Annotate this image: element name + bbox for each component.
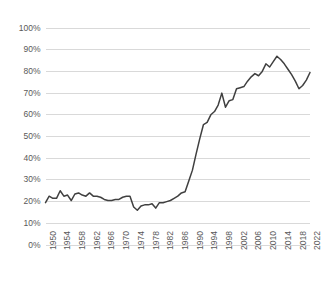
y-axis-tick-label: 10% (23, 219, 40, 228)
x-axis-tick-label: 2014 (284, 231, 293, 250)
chart-container: 0%10%20%30%40%50%60%70%80%90%100% 195019… (0, 0, 323, 284)
x-axis-tick-label: 2010 (269, 231, 278, 250)
x-axis-tick-label: 1962 (93, 231, 102, 250)
y-axis-tick-label: 60% (23, 110, 40, 119)
y-axis-tick-label: 80% (23, 67, 40, 76)
x-axis-tick-label: 1994 (210, 231, 219, 250)
data-series-group (46, 56, 311, 210)
x-axis-tick-label: 2022 (313, 231, 322, 250)
x-axis-tick-label: 2002 (240, 231, 249, 250)
x-axis-tick-label: 1970 (122, 231, 131, 250)
y-axis-tick-label: 50% (23, 132, 40, 141)
x-axis-tick-label: 1966 (107, 231, 116, 250)
y-axis-tick-label: 70% (23, 89, 40, 98)
y-axis-tick-label: 20% (23, 197, 40, 206)
x-axis-tick-label: 1982 (166, 231, 175, 250)
x-axis-tick-label: 1990 (196, 231, 205, 250)
x-axis-tick-label: 1974 (137, 231, 146, 250)
y-axis-tick-label: 40% (23, 154, 40, 163)
y-axis-tick-label: 90% (23, 45, 40, 54)
gridlines-group (46, 28, 311, 245)
y-axis-tick-label: 0% (28, 241, 40, 250)
x-axis-tick-label: 1986 (181, 231, 190, 250)
x-axis-tick-label: 2018 (299, 231, 308, 250)
x-axis-tick-label: 1978 (152, 231, 161, 250)
x-axis-tick-label: 1958 (78, 231, 87, 250)
y-axis-tick-label: 100% (19, 24, 41, 33)
x-axis-tick-label: 1950 (49, 231, 58, 250)
x-axis-tick-label: 1998 (225, 231, 234, 250)
series-line (46, 56, 311, 210)
y-axis-tick-label: 30% (23, 175, 40, 184)
x-axis-tick-label: 2006 (254, 231, 263, 250)
x-axis-tick-label: 1954 (63, 231, 72, 250)
